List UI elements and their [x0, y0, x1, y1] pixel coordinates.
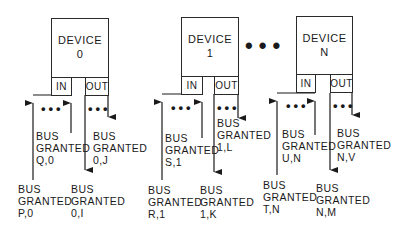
signal-label-1k: BUSGRANTED1,K	[200, 184, 254, 220]
signal-label-nv: BUSGRANTEDN,V	[337, 127, 391, 163]
device-1-id: 1	[181, 46, 239, 60]
device-0-in-dots: •••	[41, 104, 64, 114]
device-n-in-label: IN	[296, 78, 316, 90]
device-n-label: DEVICE N	[296, 31, 353, 59]
device-0-name: DEVICE	[51, 33, 109, 47]
device-0-out-label: OUT	[85, 81, 109, 93]
device-0-out-dots: •••	[88, 104, 111, 114]
device-n-out-dots: •••	[333, 101, 356, 111]
signal-label-0i: BUSGRANTED0,I	[71, 183, 125, 219]
device-1-in-label: IN	[181, 80, 203, 92]
device-1-label: DEVICE 1	[181, 32, 239, 60]
signal-label-r1: BUSGRANTEDR,1	[148, 184, 202, 220]
signal-label-s1: BUSGRANTEDS,1	[165, 132, 219, 168]
device-0-id: 0	[51, 47, 109, 61]
signal-label-nm: BUSGRANTEDN,M	[316, 182, 370, 218]
device-n-id: N	[296, 45, 353, 59]
device-n-in-dots: •••	[286, 101, 309, 111]
signal-label-p0: BUSGRANTEDP,0	[18, 183, 72, 219]
device-1-in-dots: •••	[171, 103, 194, 113]
signal-label-un: BUSGRANTEDU,N	[282, 128, 336, 164]
device-1-name: DEVICE	[181, 32, 239, 46]
signal-label-1l: BUSGRANTED1,L	[217, 117, 271, 153]
device-0-label: DEVICE 0	[51, 33, 109, 61]
device-1-out-label: OUT	[214, 80, 239, 92]
signal-label-q0: BUSGRANTEDQ,0	[36, 130, 90, 166]
signal-label-0j: BUSGRANTED0,J	[93, 130, 147, 166]
device-1-out-dots: •••	[217, 103, 240, 113]
device-n-name: DEVICE	[296, 31, 353, 45]
signal-label-tn: BUSGRANTEDT,N	[263, 179, 317, 215]
device-n-out-label: OUT	[330, 78, 353, 90]
device-0-in-label: IN	[51, 81, 72, 93]
device-ellipsis: •••	[245, 39, 286, 53]
